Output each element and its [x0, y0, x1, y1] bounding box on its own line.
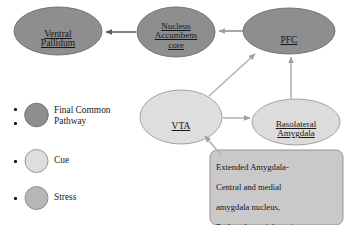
node-vta[interactable] — [140, 90, 222, 144]
extended-amygdala-box-text: Extended Amygdala- Central and medial am… — [216, 152, 342, 225]
legend-label-cue: Cue — [54, 155, 114, 166]
edge-vta-to-pfc — [209, 54, 255, 96]
box-line-4: Bed nucleus of the stria — [216, 222, 342, 225]
box-line-1: Extended Amygdala- — [216, 162, 342, 172]
legend-swatch-final-common-pathway — [25, 103, 49, 127]
node-nucleus-accumbens-core[interactable] — [137, 7, 215, 57]
legend-bullet-2 — [14, 122, 17, 125]
legend-label-stress: Stress — [54, 192, 114, 203]
node-ventral-pallidum[interactable] — [14, 7, 102, 55]
legend-label-final-common-pathway: Final Common Pathway — [54, 105, 144, 126]
legend-swatch-cue — [25, 150, 48, 173]
box-line-2: Central and medial — [216, 182, 342, 192]
legend-swatch-stress — [25, 187, 48, 210]
node-basolateral-amygdala[interactable] — [252, 99, 340, 145]
legend-bullet-3 — [14, 160, 17, 163]
legend-bullet-1 — [14, 108, 17, 111]
box-line-3: amygdala nucleus, — [216, 202, 342, 212]
node-pfc[interactable] — [243, 8, 335, 54]
legend-bullet-4 — [14, 197, 17, 200]
diagram-canvas: Ventral Pallidum Nucleus Accumbens core … — [0, 0, 345, 225]
